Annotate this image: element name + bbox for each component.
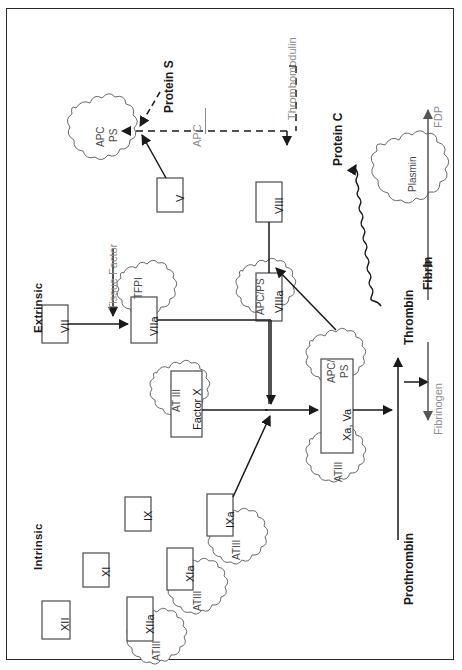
label-xa-va: Xa, Va [342, 409, 353, 441]
diagram-canvas: Extrinsic Intrinsic VII VIIa V VIII VIII… [0, 0, 462, 670]
label-protein-c: Protein C [332, 113, 344, 166]
label-viii: VIII [274, 197, 285, 214]
label-apc-ps-left-line1: APC [96, 126, 106, 147]
label-plasmin: Plasmin [408, 156, 418, 192]
label-tfpi: TFPI [134, 277, 144, 299]
label-atiii-xia: ATIII [193, 591, 203, 611]
label-viiia: VIIIa [274, 290, 285, 313]
label-xii: XII [60, 618, 71, 631]
label-protein-s: Protein S [163, 60, 175, 113]
label-thrombomodulin: Thrombomodulin [287, 37, 298, 120]
cascade-graphics [0, 0, 462, 670]
label-factor-x: Factor X [192, 388, 203, 430]
label-apc-ps-viiia: APC/PS [256, 278, 266, 315]
label-atiii-xiia: ATIII [152, 641, 162, 661]
label-apc-ps-xava-line2: PS [340, 365, 350, 378]
section-label-intrinsic: Intrinsic [33, 523, 45, 570]
section-label-extrinsic: Extrinsic [33, 283, 45, 333]
label-fibrinogen: Fibrinogen [433, 383, 444, 435]
label-viia: VIIa [149, 316, 160, 336]
label-atiii-xava: ATIII [334, 462, 344, 482]
arrow-protein-s-dashed [140, 92, 160, 126]
label-xi: XI [101, 567, 112, 577]
label-thrombin: Thrombin [403, 290, 415, 345]
label-atiii-ixa: ATIII [232, 540, 242, 560]
label-prothrombin: Prothrombin [403, 533, 415, 605]
label-fdp: FDP [433, 106, 444, 128]
label-apc-ps-xava-line1: APC/ [327, 360, 337, 383]
arrow-protein-c-squiggle [355, 165, 381, 306]
label-fibrin: Fibrin [422, 257, 434, 290]
label-xia: XIa [185, 565, 196, 582]
apc-underline [205, 108, 206, 134]
label-v: V [175, 195, 186, 202]
label-ix: IX [143, 511, 154, 521]
label-apc-ps-left-line2: PS [109, 129, 119, 142]
label-ixa: IXa [225, 511, 236, 528]
arrow-ixa-to-junction [233, 416, 270, 497]
label-tissue-factor: Tissue Factor [108, 244, 119, 310]
label-at-iii: AT III [172, 389, 182, 412]
arrow-v-to-apcps [142, 135, 166, 178]
label-vii: VII [60, 320, 71, 333]
label-xiia: XIIa [145, 614, 156, 634]
label-apc: APC [192, 124, 203, 147]
